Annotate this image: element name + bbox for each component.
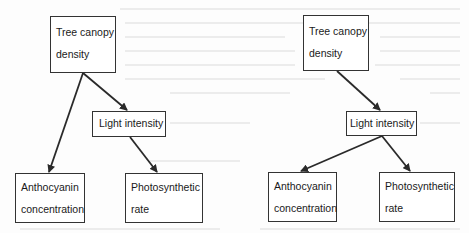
node-label-line1: Photosynthetic xyxy=(131,176,202,198)
right-node-photosynthetic-rate: Photosynthetic rate xyxy=(379,172,455,222)
arrow-light-to-anthocyanin xyxy=(301,136,382,171)
right-node-light-intensity: Light intensity xyxy=(346,111,417,136)
node-label-line2: concentration xyxy=(274,197,336,219)
node-label-line1: Tree canopy xyxy=(309,20,368,42)
left-node-light-intensity: Light intensity xyxy=(92,111,166,137)
node-label-line2: rate xyxy=(385,197,454,219)
left-node-anthocyanin-concentration: Anthocyanin concentration xyxy=(15,173,85,223)
node-label-line1: Photosynthetic xyxy=(385,175,454,197)
right-node-anthocyanin-concentration: Anthocyanin concentration xyxy=(268,172,337,222)
arrow-light-to-photosynthetic xyxy=(130,137,157,172)
node-label-line2: rate xyxy=(131,198,202,220)
node-label: Light intensity xyxy=(350,112,416,135)
node-label: Light intensity xyxy=(99,112,165,135)
arrow-tree-to-anthocyanin xyxy=(49,73,83,172)
node-label-line2: density xyxy=(309,42,368,64)
right-node-tree-canopy-density: Tree canopy density xyxy=(303,15,369,71)
node-label-line2: concentration xyxy=(21,198,84,220)
left-node-photosynthetic-rate: Photosynthetic rate xyxy=(125,173,203,223)
node-label-line1: Anthocyanin xyxy=(274,175,336,197)
node-label-line1: Anthocyanin xyxy=(21,176,84,198)
arrow-tree-to-light xyxy=(337,71,380,110)
diagram-canvas: Tree canopy density Light intensity Anth… xyxy=(0,0,469,233)
left-node-tree-canopy-density: Tree canopy density xyxy=(50,16,116,73)
node-label-line1: Tree canopy xyxy=(56,21,115,43)
node-label-line2: density xyxy=(56,43,115,65)
arrow-tree-to-light xyxy=(83,73,127,110)
arrow-light-to-photosynthetic xyxy=(382,136,410,171)
